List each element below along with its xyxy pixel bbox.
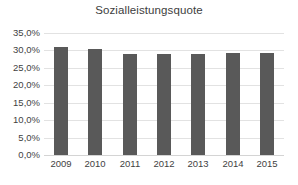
- x-axis-tick-label: 2014: [216, 158, 250, 170]
- chart-title: Sozialleistungsquote: [0, 4, 298, 16]
- bar: [191, 54, 205, 155]
- y-axis-tick-label: 20,0%: [0, 80, 40, 90]
- bar-series: [44, 33, 284, 155]
- x-axis-tick-label: 2015: [250, 158, 284, 170]
- y-axis-tick-label: 35,0%: [0, 28, 40, 38]
- x-axis-tick-label: 2010: [78, 158, 112, 170]
- y-axis-tick-label: 25,0%: [0, 63, 40, 73]
- y-axis-tick-label: 30,0%: [0, 45, 40, 55]
- y-axis-tick-label: 15,0%: [0, 98, 40, 108]
- x-axis-tick-label: 2009: [44, 158, 78, 170]
- y-axis-tick-label: 0,0%: [0, 150, 40, 160]
- bar: [157, 54, 171, 155]
- gridline: [44, 155, 284, 156]
- bar-chart: Sozialleistungsquote 35,0%30,0%25,0%20,0…: [0, 0, 298, 185]
- bar: [123, 54, 137, 155]
- bar: [54, 47, 68, 155]
- x-axis-tick-label: 2011: [113, 158, 147, 170]
- x-axis-tick-label: 2012: [147, 158, 181, 170]
- y-axis-tick-label: 10,0%: [0, 115, 40, 125]
- x-axis: 2009201020112012201320142015: [44, 158, 284, 172]
- bar: [260, 53, 274, 155]
- y-axis: 35,0%30,0%25,0%20,0%15,0%10,0%5,0%0,0%: [0, 33, 40, 155]
- y-axis-tick-label: 5,0%: [0, 133, 40, 143]
- bar: [88, 49, 102, 155]
- bar: [226, 53, 240, 155]
- x-axis-tick-label: 2013: [181, 158, 215, 170]
- plot-area: [44, 33, 284, 155]
